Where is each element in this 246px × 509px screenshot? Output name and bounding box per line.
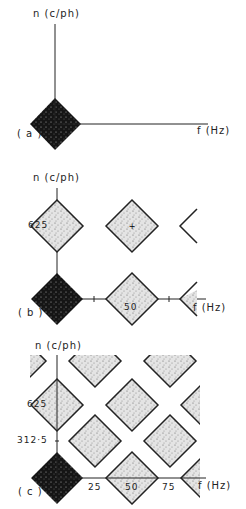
- panel-a-label: ( a ): [17, 128, 42, 139]
- panel-c-y-axis-label: n (c/ph): [35, 340, 82, 351]
- panel-b-y-axis-label: n (c/ph): [33, 172, 80, 183]
- panel-b-x-axis-label: f (Hz): [193, 302, 226, 313]
- panel-c-label: ( c ): [18, 486, 43, 497]
- panel-c-x-tick-25: 25: [88, 482, 101, 492]
- panel-c-x-tick-75: 75: [162, 482, 175, 492]
- svg-text:+: +: [129, 222, 136, 231]
- panel-c-x-tick-50: 50: [125, 482, 138, 492]
- panel-b-x-tick-50: 50: [124, 302, 137, 312]
- spectrum-diagram: +: [0, 0, 246, 509]
- panel-b-y-tick-625: 625: [28, 220, 48, 230]
- panel-c-y-tick-312-5: 312·5: [17, 435, 48, 445]
- panel-c-y-tick-625: 625: [27, 399, 47, 409]
- panel-b: +: [31, 188, 206, 325]
- panel-a: [30, 24, 208, 150]
- panel-c: [0, 335, 233, 504]
- panel-b-label: ( b ): [18, 307, 44, 318]
- panel-a-y-axis-label: n (c/ph): [33, 8, 80, 19]
- panel-a-x-axis-label: f (Hz): [197, 125, 230, 136]
- panel-c-x-axis-label: f (Hz): [198, 480, 231, 491]
